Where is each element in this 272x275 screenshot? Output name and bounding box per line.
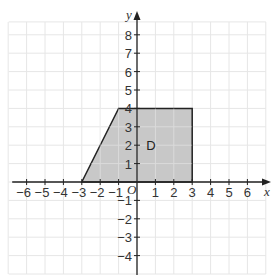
y-axis-label: y	[124, 7, 132, 22]
y-tick-label: −4	[117, 249, 132, 264]
x-tick-label: −6	[16, 185, 31, 200]
x-tick-label: 4	[207, 185, 214, 200]
y-tick-label: −2	[117, 212, 132, 227]
y-axis-arrow-icon	[134, 11, 141, 20]
y-tick-label: 8	[125, 28, 132, 43]
y-tick-label: −3	[117, 230, 132, 245]
x-tick-label: −2	[90, 185, 105, 200]
x-tick-label: −3	[71, 185, 86, 200]
y-tick-label: 7	[125, 46, 132, 61]
y-tick-label: 2	[125, 138, 132, 153]
x-tick-label: 2	[170, 185, 177, 200]
y-tick-label: 3	[125, 120, 132, 135]
y-tick-label: 5	[125, 83, 132, 98]
x-tick-label: −4	[53, 185, 68, 200]
y-tick-label: 4	[125, 101, 132, 116]
y-tick-label: 1	[125, 157, 132, 172]
x-tick-label: 5	[225, 185, 232, 200]
origin-label: O	[127, 182, 137, 197]
y-tick-label: 6	[125, 65, 132, 80]
x-axis-label: x	[263, 184, 270, 199]
x-tick-label: −5	[35, 185, 50, 200]
coordinate-grid: −6−5−4−3−2−112345687654321−1−2−3−4xyOD	[0, 0, 272, 275]
x-tick-label: 3	[189, 185, 196, 200]
x-tick-label: 6	[244, 185, 251, 200]
shape-label: D	[146, 138, 155, 153]
x-tick-label: 1	[152, 185, 159, 200]
